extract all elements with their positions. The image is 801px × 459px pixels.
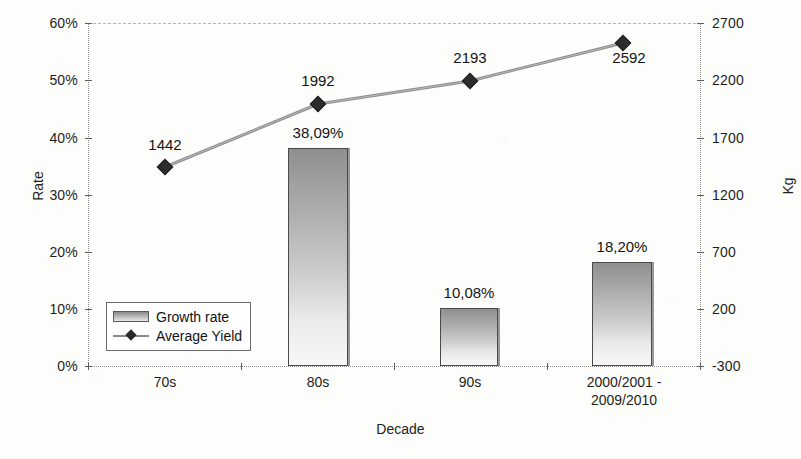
bar-2000s (592, 262, 652, 366)
y-axis-left-label: 10% (49, 301, 78, 317)
bar-90s (440, 308, 498, 366)
point-label-1992: 1992 (278, 72, 358, 89)
y-axis-left-tick (85, 80, 92, 81)
x-category-label-2000s: 2000/2001 - 2009/2010 (548, 374, 700, 409)
x-category-label-2000s-line1: 2000/2001 - (587, 374, 662, 390)
legend-label-average-yield: Average Yield (156, 328, 242, 344)
chart-figure: 60% 50% 40% 30% 20% 10% 0% 2700 2200 170… (0, 0, 801, 459)
y-axis-right-tick (697, 138, 704, 139)
legend-item-average-yield: Average Yield (113, 326, 242, 345)
bar-80s (288, 148, 348, 366)
legend-item-growth-rate: Growth rate (113, 307, 242, 326)
x-axis-tick (241, 363, 242, 370)
x-category-label-2000s-line2: 2009/2010 (591, 392, 657, 408)
y-axis-right-tick (697, 195, 704, 196)
bar-label-80s: 38,09% (278, 124, 358, 141)
y-axis-right-tick (697, 80, 704, 81)
y-axis-right-label: 1700 (712, 130, 744, 146)
y-axis-right-label: 2200 (712, 72, 744, 88)
y-axis-left-label: 50% (49, 72, 78, 88)
y-axis-left-tick (85, 252, 92, 253)
y-axis-right-label: 2700 (712, 15, 744, 31)
y-axis-right-tick (697, 309, 704, 310)
x-axis-tick (88, 363, 89, 370)
y-axis-right-title: Kg (780, 156, 796, 216)
bar-label-2000s: 18,20% (582, 238, 662, 255)
x-axis-tick (547, 363, 548, 370)
y-axis-left-title: Rate (30, 156, 46, 216)
x-category-label-80s: 80s (278, 374, 358, 392)
y-axis-right-label: -300 (712, 358, 741, 374)
y-axis-left-label: 40% (49, 130, 78, 146)
x-axis-tick (394, 363, 395, 370)
legend-line-diamond-swatch-icon (113, 330, 149, 341)
y-axis-right-tick (697, 23, 704, 24)
y-axis-left-tick (85, 138, 92, 139)
legend-bar-swatch-icon (113, 311, 149, 322)
line-marker-group (157, 35, 631, 175)
y-axis-left-tick (85, 195, 92, 196)
bar-label-90s: 10,08% (429, 284, 509, 301)
gridline-top (88, 23, 701, 24)
point-label-2193: 2193 (430, 49, 510, 66)
y-axis-left-tick (85, 23, 92, 24)
y-axis-right-label: 200 (712, 301, 736, 317)
point-label-2592: 2592 (589, 49, 669, 66)
y-axis-left-label: 0% (57, 358, 78, 374)
y-axis-right-label: 1200 (712, 187, 744, 203)
y-axis-left-label: 60% (49, 15, 78, 31)
x-category-label-90s: 90s (430, 374, 510, 392)
x-category-label-70s: 70s (125, 374, 205, 392)
x-axis-tick (700, 363, 701, 370)
y-axis-right-tick (697, 252, 704, 253)
y-axis-right-label: 700 (712, 244, 736, 260)
y-axis-left-label: 20% (49, 244, 78, 260)
point-label-1442: 1442 (125, 136, 205, 153)
y-axis-left-tick (85, 309, 92, 310)
x-axis-title: Decade (0, 421, 801, 437)
chart-legend: Growth rate Average Yield (106, 302, 251, 351)
y-axis-left-label: 30% (49, 187, 78, 203)
legend-label-growth-rate: Growth rate (156, 309, 229, 325)
